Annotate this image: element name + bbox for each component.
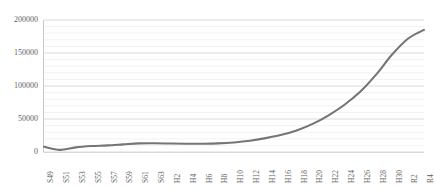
x-axis-tick-label: S53 (79, 171, 87, 183)
x-axis-tick-label: H4 (190, 174, 198, 183)
x-axis-tick-label: S51 (63, 171, 71, 183)
y-axis-tick-label: 150000 (0, 49, 38, 57)
x-axis-tick-label: H16 (285, 170, 293, 183)
x-axis-tick-label: H20 (316, 170, 324, 183)
x-axis-tick-label: H18 (301, 170, 309, 183)
x-axis-tick-label: H28 (380, 170, 388, 183)
y-axis-tick-label: 100000 (0, 82, 38, 90)
y-axis-tick-label: 50000 (0, 115, 38, 123)
x-axis-tick-label: H26 (364, 170, 372, 183)
y-axis-tick-label: 200000 (0, 16, 38, 24)
x-axis-tick-label: H2 (174, 174, 182, 183)
x-axis-tick-label: H30 (396, 170, 404, 183)
x-axis-tick-label: S61 (142, 171, 150, 183)
y-axis-tick-label: 0 (0, 148, 38, 156)
x-axis-tick-label: S49 (47, 171, 55, 183)
x-axis-tick-label: H10 (237, 170, 245, 183)
x-axis-tick-label: R4 (427, 174, 435, 183)
x-axis-tick-label: R2 (411, 174, 419, 183)
x-axis-tick-label: H22 (332, 170, 340, 183)
x-axis-tick-label: H8 (221, 174, 229, 183)
x-axis-tick-label: H14 (269, 170, 277, 183)
x-axis-tick-label: H6 (206, 174, 214, 183)
x-axis-tick-label: S59 (126, 171, 134, 183)
x-axis-tick-label: H24 (348, 170, 356, 183)
x-axis-tick-label: S63 (158, 171, 166, 183)
x-axis-tick-label: S55 (95, 171, 103, 183)
x-axis-tick-label: S57 (111, 171, 119, 183)
x-axis-tick-label: H12 (253, 170, 261, 183)
